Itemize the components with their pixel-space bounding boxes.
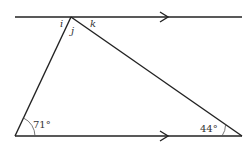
angle-label-j: j xyxy=(69,25,74,36)
diagram-canvas: i j k 71° 44° xyxy=(0,0,252,161)
triangle-right-side xyxy=(71,17,242,136)
angle-label-i: i xyxy=(60,18,63,29)
geometry-figure: i j k 71° 44° xyxy=(0,0,252,161)
angle-label-k: k xyxy=(90,18,96,29)
angle-label-71: 71° xyxy=(33,119,51,130)
angle-arc-44 xyxy=(222,125,226,136)
angle-label-44: 44° xyxy=(200,123,218,134)
